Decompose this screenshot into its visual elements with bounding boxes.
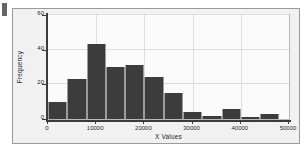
corner-artifact-mark (2, 3, 7, 16)
histogram-bar (67, 79, 86, 119)
histogram-bar (222, 109, 241, 119)
x-tick-label: 10000 (87, 125, 104, 131)
x-tick-label: 20000 (135, 125, 152, 131)
x-tick-label: 30000 (183, 125, 200, 131)
histogram-bar (125, 65, 144, 119)
x-tick-label: 50000 (280, 125, 297, 131)
x-tick-mark (192, 120, 193, 124)
x-tick-mark (95, 120, 96, 124)
y-axis-title: Frequency (16, 51, 23, 84)
x-tick-mark (143, 120, 144, 124)
x-tick-mark (288, 120, 289, 124)
x-tick-mark (240, 120, 241, 124)
histogram-bar (144, 77, 163, 119)
x-tick-label: 0 (45, 125, 48, 131)
histogram-bar (48, 102, 67, 119)
histogram-bar (260, 114, 279, 119)
plot-area (47, 14, 290, 120)
bar-series (48, 15, 289, 119)
y-tick-label: 60 (37, 10, 44, 16)
y-tick-label: 0 (41, 114, 44, 120)
histogram-bar (241, 117, 260, 119)
x-axis-title: X Values (47, 133, 290, 140)
histogram-bar (164, 93, 183, 119)
x-tick-label: 40000 (231, 125, 248, 131)
histogram-bar (202, 116, 221, 119)
y-axis-line: 0204060 (46, 13, 48, 121)
histogram-bar (183, 112, 202, 119)
x-axis-line: 01000020000300004000050000 (46, 120, 291, 122)
histogram-bar (106, 67, 125, 119)
y-tick-label: 20 (37, 79, 44, 85)
histogram-bar (87, 44, 106, 119)
y-tick-label: 40 (37, 45, 44, 51)
histogram-screenshot: 0204060 01000020000300004000050000 X Val… (0, 0, 306, 152)
x-tick-mark (47, 120, 48, 124)
